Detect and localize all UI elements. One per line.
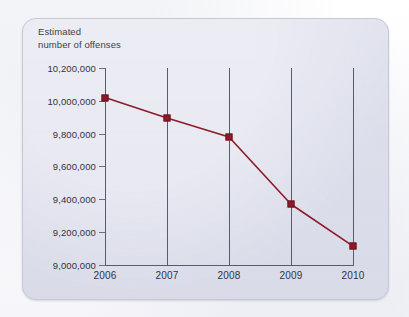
data-point-2009 [288,201,295,208]
data-point-2006 [102,94,109,101]
series-line-offenses [0,0,409,317]
data-point-2010 [350,243,357,250]
data-point-2007 [164,115,171,122]
data-point-2008 [226,133,233,140]
chart-screenshot: Estimated number of offenses 10,200,000 … [0,0,409,317]
plot-area: 10,200,000 10,000,000 9,800,000 9,600,00… [0,0,409,317]
